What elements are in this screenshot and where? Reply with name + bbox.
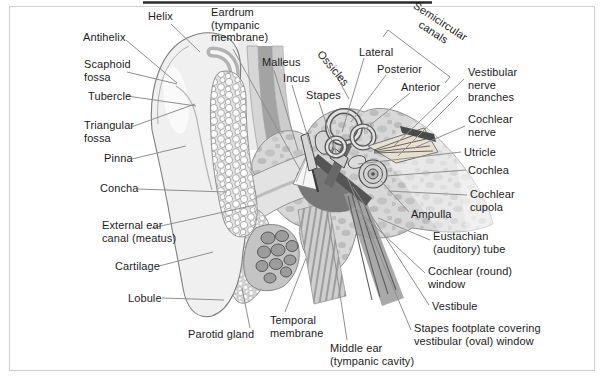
label-cartilage: Cartilage: [115, 260, 160, 273]
label-cochlear-round-window: Cochlear (round) window: [428, 265, 514, 290]
label-tubercle: Tubercle: [88, 90, 131, 103]
cochlea-spiral: [359, 160, 387, 188]
label-utricle: Utricle: [464, 146, 496, 159]
label-cochlea: Cochlea: [468, 164, 509, 177]
label-vestibular-nerve-branches: Vestibular nerve branches: [468, 66, 524, 104]
label-scaphoid-fossa: Scaphoid fossa: [84, 58, 140, 83]
label-helix: Helix: [148, 10, 173, 23]
label-malleus: Malleus: [262, 56, 301, 69]
label-triangular-fossa: Triangular fossa: [84, 119, 140, 144]
parotid-gland-cluster: [244, 225, 300, 291]
label-lateral: Lateral: [359, 46, 393, 59]
label-cochlear-cupola: Cochlear cupola: [470, 188, 518, 213]
label-posterior: Posterior: [377, 63, 422, 76]
label-cochlear-nerve: Cochlear nerve: [468, 113, 516, 138]
label-ampulla: Ampulla: [411, 208, 451, 221]
label-stapes: Stapes: [306, 89, 341, 102]
label-vestibule: Vestibule: [432, 300, 478, 313]
label-parotid-gland: Parotid gland: [188, 328, 254, 341]
label-stapes-footplate: Stapes footplate covering vestibular (ov…: [414, 322, 544, 347]
label-incus: Incus: [283, 72, 310, 85]
label-eustachian-tube: Eustachian (auditory) tube: [433, 230, 507, 255]
label-concha: Concha: [100, 182, 139, 195]
label-external-ear-canal: External ear canal (meatus): [102, 219, 182, 244]
label-eardrum: Eardrum (tympanic membrane): [211, 6, 273, 44]
ear-anatomy-figure: Helix Antihelix Scaphoid fossa Tubercle …: [0, 0, 603, 379]
label-antihelix: Antihelix: [83, 31, 125, 44]
label-lobule: Lobule: [128, 292, 162, 305]
label-anterior: Anterior: [401, 81, 440, 94]
label-pinna: Pinna: [104, 152, 133, 165]
label-temporal-membrane: Temporal membrane: [270, 314, 326, 339]
label-middle-ear: Middle ear (tympanic cavity): [330, 342, 422, 367]
